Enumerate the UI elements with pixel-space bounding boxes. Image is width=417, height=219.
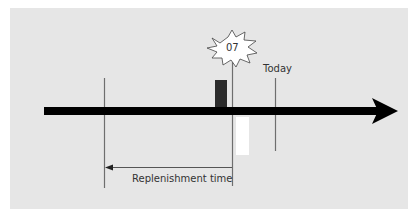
demand-bar: [215, 80, 227, 109]
timeline-diagram: [0, 0, 417, 219]
replenishment-label: Replenishment time: [132, 173, 233, 184]
replenishment-arrowhead-icon: [105, 165, 113, 171]
timeline-axis: [44, 107, 382, 115]
supply-bar: [236, 117, 249, 155]
burst-label: 07: [226, 42, 239, 53]
today-label: Today: [263, 63, 292, 74]
